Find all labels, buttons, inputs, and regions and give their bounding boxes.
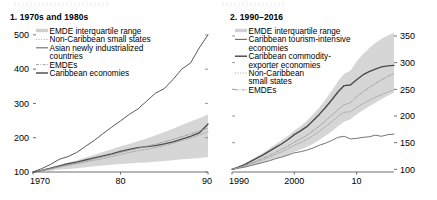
y-tick-label: 400 (14, 64, 29, 74)
y-tick-label: 150 (400, 138, 415, 148)
chart-panel-1: 1. 1970s and 1980s 197080901002003004005… (0, 0, 219, 200)
panel-1-plot: 19708090100200300400500EMDE interquartil… (0, 0, 219, 200)
y-tick-label: 200 (14, 133, 29, 143)
y-tick-label: 100 (400, 165, 415, 175)
x-tick-label: 1990 (229, 176, 249, 186)
x-tick-label: 80 (115, 176, 125, 186)
y-tick-label: 300 (14, 99, 29, 109)
x-tick-label: 1970 (30, 176, 50, 186)
legend-label: EMDEs (249, 86, 277, 95)
legend-swatch-band (235, 29, 247, 32)
y-tick-label: 350 (400, 31, 415, 41)
emde-interquartile-band (33, 114, 208, 172)
chart-panel-2: 2. 1990–2016 199020001010015020025030035… (218, 0, 437, 200)
panel-2-plot: 1990200010100150200250300350EMDE interqu… (218, 0, 437, 200)
y-tick-label: 500 (14, 30, 29, 40)
legend-swatch-band (36, 29, 48, 32)
y-tick-label: 250 (400, 85, 415, 95)
x-tick-label: 10 (352, 176, 362, 186)
legend-label: Caribbean economies (50, 69, 130, 78)
y-tick-label: 300 (400, 58, 415, 68)
x-tick-label: 2000 (284, 176, 304, 186)
y-tick-label: 200 (400, 111, 415, 121)
figure-root: 1. 1970s and 1980s 197080901002003004005… (0, 0, 437, 200)
y-tick-label: 100 (14, 167, 29, 177)
x-tick-label: 90 (202, 176, 212, 186)
